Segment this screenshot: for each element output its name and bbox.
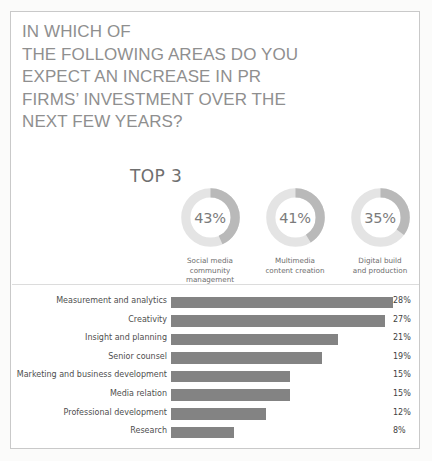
- donut-caption-line-2: community management: [171, 266, 249, 285]
- section-divider: [12, 284, 420, 285]
- donut-caption-line-1: Multimedia: [265, 256, 324, 266]
- bar-value-label: 28%: [393, 296, 411, 305]
- donut-gauge-digital-build: 35% Digital build and production: [341, 188, 419, 285]
- bar-category-label: Marketing and business development: [10, 370, 167, 379]
- bar-fill: [171, 408, 266, 420]
- bar-category-label: Creativity: [10, 315, 167, 324]
- donut-gauge-multimedia: 41% Multimedia content creation: [256, 188, 334, 285]
- bar-row: Research 8%: [11, 424, 420, 443]
- bar-row: Insight and planning 21%: [11, 331, 420, 350]
- bar-row: Senior counsel 19%: [11, 350, 420, 369]
- infographic-card: IN WHICH OF THE FOLLOWING AREAS DO YOU E…: [10, 11, 420, 449]
- donut-caption: Digital build and production: [353, 256, 407, 275]
- donut-value-label: 35%: [351, 188, 410, 247]
- title-line-3: EXPECT AN INCREASE IN PR: [22, 66, 352, 89]
- donut-chart: 35%: [351, 188, 410, 247]
- bar-track: [171, 352, 393, 364]
- bar-row: Measurement and analytics 28%: [11, 294, 420, 313]
- bar-track: [171, 315, 393, 327]
- bar-chart: Measurement and analytics 28% Creativity…: [11, 294, 420, 443]
- bar-category-label: Insight and planning: [10, 333, 167, 342]
- donut-chart: 43%: [181, 188, 240, 247]
- bar-track: [171, 297, 393, 309]
- bar-fill: [171, 427, 234, 439]
- donut-caption-line-2: and production: [353, 266, 407, 276]
- bar-track: [171, 389, 393, 401]
- bar-fill: [171, 315, 385, 327]
- donut-caption-line-2: content creation: [265, 266, 324, 276]
- bar-fill: [171, 389, 290, 401]
- bar-row: Professional development 12%: [11, 406, 420, 425]
- bar-value-label: 19%: [393, 352, 411, 361]
- title-line-5: NEXT FEW YEARS?: [22, 111, 352, 134]
- top3-heading: TOP 3: [130, 166, 182, 186]
- donut-value-label: 43%: [181, 188, 240, 247]
- bar-track: [171, 427, 393, 439]
- title-line-2: THE FOLLOWING AREAS DO YOU: [22, 44, 352, 67]
- bar-fill: [171, 352, 322, 364]
- bar-category-label: Research: [10, 426, 167, 435]
- title-line-4: FIRMS’ INVESTMENT OVER THE: [22, 89, 352, 112]
- title-line-1: IN WHICH OF: [22, 21, 352, 44]
- donut-caption: Social media community management: [171, 256, 249, 285]
- donut-gauge-social-media: 43% Social media community management: [171, 188, 249, 285]
- bar-row: Creativity 27%: [11, 313, 420, 332]
- bar-value-label: 15%: [393, 370, 411, 379]
- bar-track: [171, 371, 393, 383]
- donut-gauge-group: 43% Social media community management 41…: [171, 188, 419, 285]
- bar-track: [171, 408, 393, 420]
- donut-chart: 41%: [266, 188, 325, 247]
- donut-caption: Multimedia content creation: [265, 256, 324, 275]
- bar-category-label: Professional development: [10, 408, 167, 417]
- bar-category-label: Media relation: [10, 389, 167, 398]
- page-title: IN WHICH OF THE FOLLOWING AREAS DO YOU E…: [22, 21, 352, 134]
- bar-row: Marketing and business development 15%: [11, 368, 420, 387]
- bar-fill: [171, 334, 338, 346]
- bar-track: [171, 334, 393, 346]
- donut-caption-line-1: Social media: [171, 256, 249, 266]
- bar-category-label: Measurement and analytics: [10, 296, 167, 305]
- bar-value-label: 15%: [393, 389, 411, 398]
- bar-value-label: 27%: [393, 315, 411, 324]
- donut-caption-line-1: Digital build: [353, 256, 407, 266]
- bar-category-label: Senior counsel: [10, 352, 167, 361]
- bar-fill: [171, 297, 393, 309]
- bar-value-label: 21%: [393, 333, 411, 342]
- donut-value-label: 41%: [266, 188, 325, 247]
- bar-fill: [171, 371, 290, 383]
- bar-value-label: 12%: [393, 408, 411, 417]
- bar-row: Media relation 15%: [11, 387, 420, 406]
- bar-value-label: 8%: [393, 426, 406, 435]
